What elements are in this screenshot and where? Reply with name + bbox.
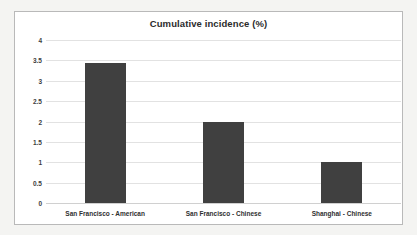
y-axis-tick-label: 2.5	[33, 98, 42, 105]
chart-frame: Cumulative incidence (%) 00.511.522.533.…	[14, 11, 403, 225]
x-axis-line	[46, 203, 401, 204]
y-axis-tick-label: 3.5	[33, 57, 42, 64]
bar	[203, 122, 244, 204]
x-axis-category-label: San Francisco - Chinese	[186, 210, 262, 217]
x-axis-category-label: San Francisco - American	[65, 210, 145, 217]
y-axis-tick-label: 0	[38, 200, 42, 207]
x-axis-category-labels: San Francisco - AmericanSan Francisco - …	[46, 208, 401, 222]
bar	[85, 63, 126, 203]
x-axis-category-label: Shanghai - Chinese	[312, 210, 372, 217]
y-axis-tick-label: 0.5	[33, 179, 42, 186]
bars-layer	[46, 40, 401, 203]
plot-area: 00.511.522.533.54	[46, 40, 401, 203]
y-axis-tick-label: 1.5	[33, 138, 42, 145]
y-axis-tick-label: 4	[38, 37, 42, 44]
y-axis-tick-label: 1	[38, 159, 42, 166]
chart-title: Cumulative incidence (%)	[15, 18, 402, 30]
y-axis-tick-label: 3	[38, 77, 42, 84]
bar	[321, 162, 362, 203]
y-axis-tick-label: 2	[38, 118, 42, 125]
